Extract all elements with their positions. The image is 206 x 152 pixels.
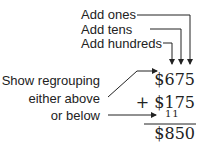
label-either-above: either above [28,92,100,105]
label-show-regrouping: Show regrouping [2,74,100,87]
label-add-ones: Add ones [81,8,136,21]
sum: $850 [154,126,195,142]
hundreds-arrow [163,43,172,64]
label-add-tens: Add tens [81,23,132,36]
addend-1: $675 [154,72,195,88]
label-or-below: or below [51,109,100,122]
carry-digits: 11 [165,109,180,119]
label-add-hundreds: Add hundreds [81,37,162,50]
